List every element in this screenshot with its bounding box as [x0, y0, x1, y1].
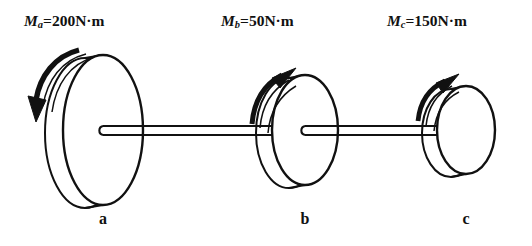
moment-label-a: Ma=200N·m: [24, 12, 104, 30]
moment-value-a: 200N·m: [52, 12, 105, 29]
moment-label-b: Mb=50N·m: [221, 12, 294, 30]
station-letter-c: c: [446, 210, 486, 228]
moment-value-b: 50N·m: [249, 12, 294, 29]
moment-symbol-c: M: [387, 12, 401, 29]
disk-c-front-face: [437, 86, 495, 174]
moment-symbol-b: M: [221, 12, 235, 29]
moment-symbol-a: M: [24, 12, 38, 29]
moment-equals-a: =: [43, 12, 52, 29]
moment-label-c: Mc=150N·m: [387, 12, 467, 30]
station-letter-a: a: [83, 210, 123, 228]
disk-b-front-face: [272, 75, 338, 185]
moment-equals-c: =: [405, 12, 414, 29]
station-letter-b: b: [285, 210, 325, 228]
disk-a-front-face: [63, 55, 143, 205]
moment-equals-b: =: [240, 12, 249, 29]
moment-value-c: 150N·m: [414, 12, 467, 29]
